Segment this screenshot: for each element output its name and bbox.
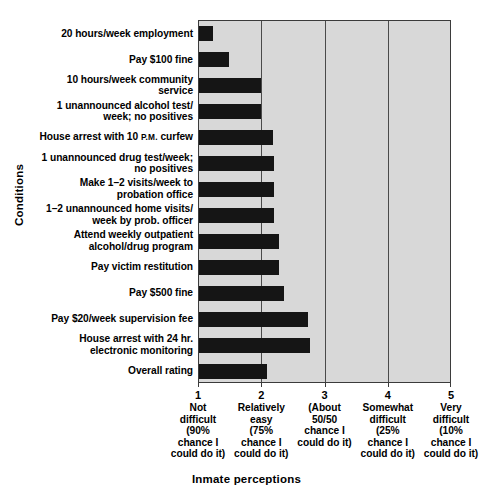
category-label: Pay $500 fine — [18, 287, 193, 299]
bar — [199, 156, 274, 171]
tick-mark-3 — [325, 383, 326, 387]
x-axis-title: Inmate perceptions — [0, 473, 493, 485]
small-caps-text: P.M. — [141, 132, 158, 142]
category-label-column: 20 hours/week employmentPay $100 fine10 … — [18, 20, 193, 383]
x-axis-tick-labels: 1Not difficult (90% chance I could do it… — [0, 389, 493, 464]
gridline-4 — [388, 21, 389, 382]
x-tick-label-group: 5Very difficult (10% chance I could do i… — [408, 389, 493, 460]
plot-area — [198, 20, 451, 383]
bar — [199, 182, 274, 197]
category-label: Pay $20/week supervision fee — [18, 313, 193, 325]
bar — [199, 260, 279, 275]
category-label: Overall rating — [18, 365, 193, 377]
tick-mark-5 — [450, 383, 451, 387]
category-label: 20 hours/week employment — [18, 28, 193, 40]
category-label: 1–2 unannounced home visits/week by prob… — [18, 203, 193, 226]
bar — [199, 208, 274, 223]
bar — [199, 78, 261, 93]
tick-mark-1 — [198, 383, 199, 387]
category-label: 10 hours/week communityservice — [18, 74, 193, 97]
bar — [199, 52, 229, 67]
category-label: 1 unannounced drug test/week;no positive… — [18, 152, 193, 175]
bar — [199, 26, 213, 41]
tick-mark-4 — [388, 383, 389, 387]
category-label: Pay victim restitution — [18, 261, 193, 273]
bar — [199, 234, 279, 249]
bar — [199, 364, 267, 379]
category-label: House arrest with 10 P.M. curfew — [18, 131, 193, 144]
bar — [199, 130, 273, 145]
category-label: House arrest with 24 hr.electronic monit… — [18, 333, 193, 356]
bar — [199, 104, 261, 119]
category-label: Pay $100 fine — [18, 54, 193, 66]
x-tick-description: Very difficult (10% chance I could do it… — [408, 402, 493, 460]
horizontal-bar-chart: Conditions 20 hours/week employmentPay $… — [0, 0, 493, 499]
bar — [199, 338, 310, 353]
category-label: Make 1–2 visits/week toprobation office — [18, 177, 193, 200]
tick-mark-2 — [261, 383, 262, 387]
bar — [199, 312, 308, 327]
gridline-2 — [261, 21, 262, 382]
gridline-3 — [325, 21, 326, 382]
category-label: 1 unannounced alcohol test/week; no posi… — [18, 100, 193, 123]
bar — [199, 286, 284, 301]
category-label: Attend weekly outpatientalcohol/drug pro… — [18, 229, 193, 252]
x-tick-number: 5 — [408, 389, 493, 402]
